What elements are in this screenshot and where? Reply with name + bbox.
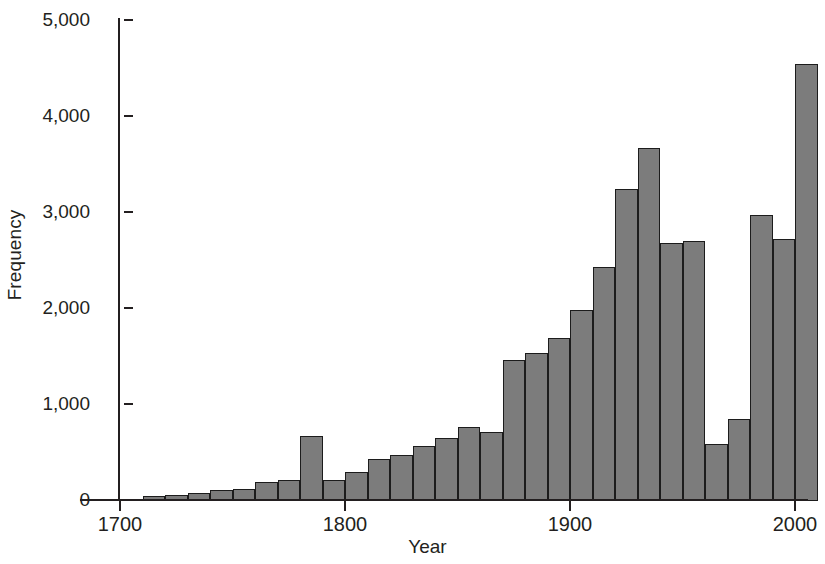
histogram-bar bbox=[413, 446, 436, 501]
histogram-bar bbox=[278, 480, 301, 501]
histogram-bar bbox=[795, 64, 818, 501]
x-axis-tick-mark bbox=[344, 501, 346, 511]
histogram-bar bbox=[615, 189, 638, 501]
histogram-bar bbox=[503, 360, 526, 501]
x-axis-title: Year bbox=[0, 536, 825, 558]
histogram-bar bbox=[728, 419, 751, 501]
histogram-bar bbox=[660, 243, 683, 501]
plot-area bbox=[0, 0, 825, 501]
histogram-bar bbox=[683, 241, 706, 501]
histogram-bar bbox=[705, 444, 728, 501]
x-axis-tick-mark bbox=[119, 501, 121, 511]
histogram-bar bbox=[480, 432, 503, 501]
histogram-bar bbox=[345, 472, 368, 501]
histogram-bar bbox=[300, 436, 323, 501]
histogram-bar bbox=[593, 267, 616, 501]
histogram-bar bbox=[570, 310, 593, 501]
histogram-bar bbox=[368, 459, 391, 501]
x-axis-title-label: Year bbox=[408, 536, 446, 557]
x-axis-tick-label: 1900 bbox=[548, 513, 593, 536]
x-axis-line bbox=[80, 499, 808, 501]
x-axis-tick-mark bbox=[569, 501, 571, 511]
histogram-bar bbox=[435, 438, 458, 501]
x-axis-tick-label: 2000 bbox=[773, 513, 818, 536]
histogram-bar bbox=[323, 480, 346, 501]
histogram-bar bbox=[458, 427, 481, 501]
histogram-bar bbox=[548, 338, 571, 501]
histogram-figure: Frequency 01,0002,0003,0004,0005,000 170… bbox=[0, 0, 825, 564]
x-axis-tick-mark bbox=[794, 501, 796, 511]
histogram-bar bbox=[390, 455, 413, 501]
histogram-bar bbox=[525, 353, 548, 501]
histogram-bar bbox=[638, 148, 661, 501]
histogram-bar bbox=[750, 215, 773, 501]
x-axis-tick-label: 1800 bbox=[323, 513, 368, 536]
histogram-bar bbox=[773, 239, 796, 501]
x-axis-tick-label: 1700 bbox=[98, 513, 143, 536]
